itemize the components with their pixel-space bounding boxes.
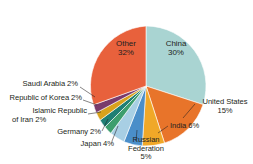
slice-label-china: China 30% bbox=[156, 39, 196, 57]
callout-russian-federation: Russian Federation 5% bbox=[118, 136, 174, 162]
slice-label-china-name: China bbox=[156, 39, 196, 48]
callout-republic-of-korea: Republic of Korea 2% bbox=[2, 94, 82, 103]
slice-label-other: Other 32% bbox=[104, 39, 148, 57]
callout-japan: Japan 4% bbox=[58, 140, 114, 149]
slice-label-other-value: 32% bbox=[104, 48, 148, 57]
callout-india: India 6% bbox=[170, 122, 199, 131]
callout-iran-line2: of Iran 2% bbox=[8, 116, 87, 125]
callout-united-states-value: 15% bbox=[197, 107, 253, 116]
callout-saudi-arabia: Saudi Arabia 2% bbox=[6, 80, 78, 89]
callout-germany: Germany 2% bbox=[36, 128, 101, 137]
pie-chart-figure: Other 32% China 30% United States 15% In… bbox=[0, 0, 253, 164]
callout-russian-federation-value: 5% bbox=[118, 153, 174, 162]
callout-united-states: United States 15% bbox=[197, 98, 253, 115]
slice-label-china-value: 30% bbox=[156, 48, 196, 57]
slice-label-other-name: Other bbox=[104, 39, 148, 48]
callout-islamic-republic-of-iran: Islamic Republic of Iran 2% bbox=[8, 107, 87, 124]
